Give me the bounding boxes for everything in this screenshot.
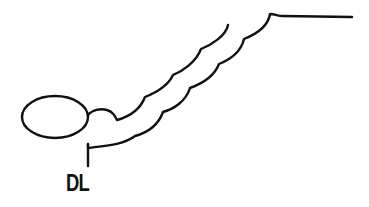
diagram-svg bbox=[0, 0, 369, 207]
oval-body bbox=[22, 96, 88, 138]
lower-scalloped-curve bbox=[88, 14, 352, 148]
diagram-canvas bbox=[0, 0, 369, 207]
upper-scalloped-curve bbox=[88, 25, 228, 120]
dl-label: DL bbox=[66, 172, 89, 195]
